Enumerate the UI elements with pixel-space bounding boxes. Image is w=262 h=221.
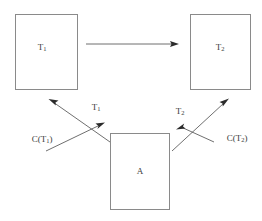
edge-label-t2: T2 [176, 106, 185, 116]
edge-a-to-t1 [49, 99, 111, 142]
node-box-t1 [16, 15, 78, 90]
edge-label-c-t2: C(T2) [227, 133, 248, 143]
edge-label-t1: T1 [92, 102, 101, 112]
edge-t1-to-t2 [86, 41, 179, 47]
edge-label-c-t1: C(T1) [32, 134, 53, 144]
diagram-canvas: T1 T2 A T1 C(T1) T2 C(T2) [0, 0, 262, 221]
node-label-a: A [137, 166, 144, 176]
edge-t1-to-a [46, 123, 105, 152]
edge-t2-to-a [176, 124, 214, 142]
diagram-root: T1 T2 A T1 C(T1) T2 C(T2) [0, 0, 262, 221]
